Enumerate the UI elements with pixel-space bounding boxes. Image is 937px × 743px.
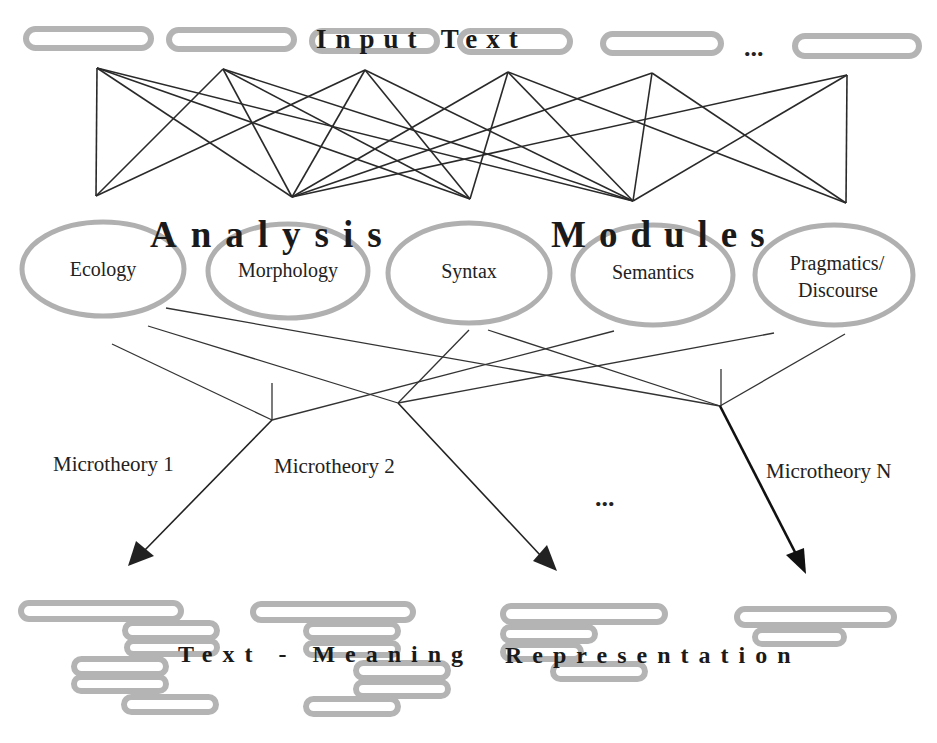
analysis-heading: Analysis: [150, 214, 396, 255]
arrow-microtheory-1: [128, 420, 272, 566]
microtheory-ellipsis: ...: [595, 483, 615, 512]
module-discourse-label: Discourse: [798, 279, 878, 301]
arrowhead-icon: [533, 545, 557, 571]
module-syntax-label: Syntax: [441, 260, 497, 283]
input-token-5: [603, 34, 721, 53]
input-token-1: [26, 29, 151, 48]
input-to-module-connections: [96, 68, 847, 203]
input-ellipsis: ...: [744, 33, 764, 62]
tmr-title-part1: Text - Meaning: [178, 641, 473, 667]
input-token-6: [795, 36, 919, 56]
microtheory-2-label: Microtheory 2: [274, 454, 395, 478]
tmr-title-part2: Representation: [505, 642, 801, 668]
microtheory-arrows: [128, 403, 806, 574]
architecture-diagram: Input Text ... Ecology: [0, 0, 937, 743]
module-pragmatics-discourse: Pragmatics/ Discourse: [755, 225, 913, 325]
module-ecology-label: Ecology: [70, 258, 137, 281]
module-morphology-label: Morphology: [238, 259, 338, 282]
modules-heading: Modules: [551, 214, 778, 255]
module-syntax: Syntax: [388, 223, 550, 323]
arrow-microtheory-n: [720, 406, 806, 574]
microtheory-1-label: Microtheory 1: [53, 452, 174, 476]
module-semantics-label: Semantics: [612, 261, 694, 283]
arrow-microtheory-2: [398, 403, 557, 571]
input-token-2: [169, 30, 294, 49]
microtheory-n-label: Microtheory N: [766, 459, 891, 483]
module-pragmatics-label: Pragmatics/: [790, 252, 885, 275]
arrowhead-icon: [786, 548, 806, 574]
input-text-title: Input Text: [316, 24, 527, 54]
